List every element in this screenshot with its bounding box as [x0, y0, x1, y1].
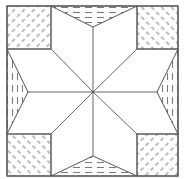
edge-triangle-bottom	[51, 156, 137, 176]
star-quilt-svg	[0, 0, 185, 179]
star-line	[93, 92, 137, 134]
corner-square-bottom-right	[137, 134, 178, 176]
edge-triangle-right	[157, 49, 178, 134]
star-line	[51, 92, 93, 134]
edge-triangle-top	[51, 6, 137, 27]
star-line	[51, 49, 93, 92]
corner-square-top-right	[137, 6, 178, 49]
edge-triangle-left	[7, 49, 28, 134]
star-line	[93, 49, 137, 92]
corner-square-bottom-left	[7, 134, 51, 176]
corner-square-top-left	[7, 6, 51, 49]
quilt-block-diagram	[0, 0, 185, 179]
